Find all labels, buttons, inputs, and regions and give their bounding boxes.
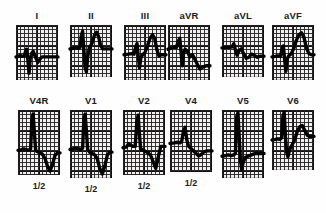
lead-panel-aVF [272, 25, 314, 80]
ecg-trace-aVL [222, 25, 264, 77]
ecg-trace-III [124, 25, 166, 80]
lead-panel-V1 [70, 110, 112, 178]
lead-label-I: I [6, 11, 68, 21]
lead-label-aVF: aVF [262, 11, 324, 21]
lead-label-aVR: aVR [158, 11, 220, 21]
lead-panel-III [124, 25, 166, 80]
ecg-trace-aVF [272, 25, 314, 80]
scale-label-V4: 1/2 [160, 178, 222, 188]
ecg-trace-V2 [123, 110, 165, 175]
ecg-trace-I [16, 25, 58, 80]
lead-panel-aVL [222, 25, 264, 77]
lead-panel-V6 [272, 110, 314, 170]
ecg-trace-V4 [170, 110, 212, 172]
lead-label-II: II [60, 11, 122, 21]
ecg-trace-V6 [272, 110, 314, 170]
ecg-trace-II [70, 25, 112, 77]
ecg-trace-aVR [168, 25, 210, 80]
lead-panel-aVR [168, 25, 210, 80]
lead-label-V6: V6 [262, 96, 324, 106]
lead-panel-V2 [123, 110, 165, 175]
ecg-trace-V5 [222, 110, 264, 178]
lead-panel-I [16, 25, 58, 80]
lead-panel-II [70, 25, 112, 77]
ecg-trace-V1 [70, 110, 112, 178]
lead-panel-V4 [170, 110, 212, 172]
ecg-trace-V4R [18, 110, 60, 175]
lead-panel-V4R [18, 110, 60, 175]
lead-panel-V5 [222, 110, 264, 178]
ecg-figure: IIIIIIaVRaVLaVFV4R1/2V11/2V21/2V41/2V5V6 [0, 0, 326, 213]
